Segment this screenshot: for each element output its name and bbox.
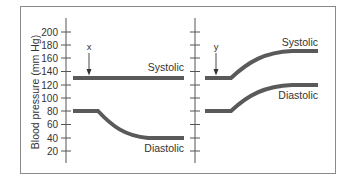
- tick-140: 140: [41, 66, 58, 77]
- y-axis-label: Blood pressure (mm Hg): [29, 35, 41, 149]
- left-systolic-label: Systolic: [148, 61, 184, 73]
- tick-100: 100: [41, 93, 58, 104]
- right-diastolic-label: Diastolic: [278, 89, 318, 101]
- arrow-label-y: y: [214, 41, 219, 52]
- tick-60: 60: [47, 119, 59, 130]
- tick-200: 200: [41, 27, 58, 38]
- tick-180: 180: [41, 40, 58, 51]
- tick-80: 80: [47, 106, 59, 117]
- blood-pressure-chart: Blood pressure (mm Hg) 200 180 160 140 1…: [0, 0, 352, 188]
- arrow-label-x: x: [87, 41, 92, 52]
- tick-40: 40: [47, 133, 59, 144]
- left-diastolic-label: Diastolic: [144, 142, 184, 154]
- right-systolic-label: Systolic: [282, 36, 318, 48]
- tick-120: 120: [41, 80, 58, 91]
- tick-160: 160: [41, 53, 58, 64]
- tick-20: 20: [47, 146, 59, 157]
